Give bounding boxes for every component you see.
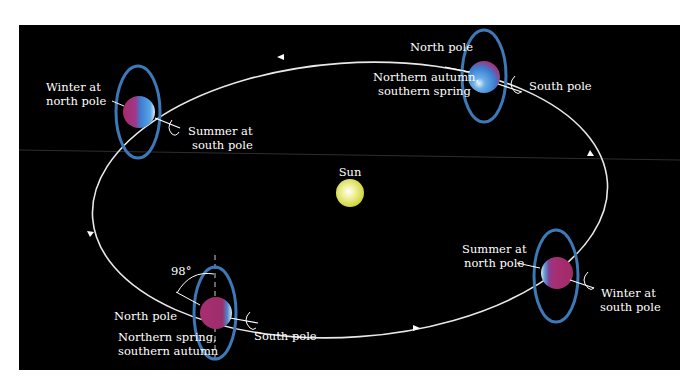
planet-top-right: North pole Northern autumn, southern spr… bbox=[373, 30, 592, 122]
planet-body bbox=[123, 96, 155, 128]
north-pole-label: North pole bbox=[114, 309, 177, 323]
planet-body bbox=[200, 297, 232, 329]
rotation-axis bbox=[570, 280, 594, 288]
sun: Sun bbox=[336, 165, 364, 207]
opposite-label: Summer at bbox=[188, 124, 253, 138]
season-label: north pole bbox=[46, 94, 106, 108]
orbit-arrow-right bbox=[587, 150, 594, 156]
opposite-label: Winter at bbox=[601, 286, 656, 300]
season-label: Northern autumn, bbox=[373, 70, 479, 84]
season-label: southern autumn bbox=[118, 344, 219, 358]
season-label: Winter at bbox=[46, 80, 101, 94]
tilt-angle-label: 98° bbox=[171, 264, 191, 278]
sun-body bbox=[336, 179, 364, 207]
planet-bottom-left: 98° North pole Northern spring, southern… bbox=[114, 255, 317, 360]
sun-label: Sun bbox=[339, 165, 362, 179]
opposite-label: south pole bbox=[192, 138, 253, 152]
orbit-arrow-top bbox=[277, 54, 284, 60]
orbit-arrow-left bbox=[87, 231, 94, 237]
opposite-label: south pole bbox=[600, 300, 661, 314]
season-label: Summer at bbox=[462, 242, 527, 256]
orbit-arrow-bottom bbox=[413, 325, 420, 331]
north-pole-label: North pole bbox=[410, 40, 473, 54]
south-pole-label: South pole bbox=[529, 79, 592, 93]
orbit-diagram: Sun Winter at north pole Summer at south… bbox=[0, 0, 695, 387]
season-label: north pole bbox=[464, 256, 524, 270]
planet-left: Winter at north pole Summer at south pol… bbox=[46, 66, 253, 158]
south-pole-label: South pole bbox=[254, 329, 317, 343]
planet-body bbox=[541, 257, 573, 289]
season-label: Northern spring, bbox=[118, 330, 217, 344]
season-label: southern spring bbox=[378, 84, 471, 98]
